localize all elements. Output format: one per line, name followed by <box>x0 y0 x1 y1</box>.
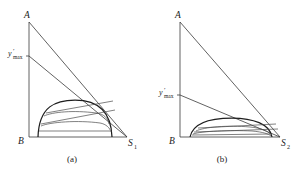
panel-a-label-right-vertex-subscript: 1 <box>134 144 137 150</box>
panel-a-line-apex-to-vertex <box>29 22 127 137</box>
panel-b-label-apex: A <box>174 10 181 20</box>
panel-a-label-right-vertex-main: S <box>128 138 133 148</box>
panel-a-label-ymax-subscript: max <box>13 54 23 60</box>
panel-b-label-ymax-var: y <box>158 88 163 97</box>
panel-b-label-ymax: y ′ max <box>158 86 174 99</box>
panel-b-label-right-vertex: S 2 <box>281 138 290 150</box>
panel-a: A B S 1 y ′ max (a) <box>7 10 137 164</box>
panel-b-line-apex-to-vertex <box>180 22 280 137</box>
figure-root: A B S 1 y ′ max (a) <box>0 0 304 171</box>
panel-b-label-right-vertex-subscript: 2 <box>287 144 290 150</box>
panel-a-label-right-vertex: S 1 <box>128 138 137 150</box>
panel-b-caption: (b) <box>217 154 228 164</box>
panel-a-caption: (a) <box>67 154 77 164</box>
panel-a-label-ymax: y ′ max <box>7 47 23 60</box>
figure-svg: A B S 1 y ′ max (a) <box>0 0 304 171</box>
panel-b-chord-3 <box>192 134 272 135</box>
panel-b: A B S 2 y ′ max (b) <box>158 10 290 164</box>
panel-b-label-origin: B <box>169 136 175 146</box>
panel-a-label-origin: B <box>18 136 24 146</box>
panel-b-label-ymax-subscript: max <box>164 93 174 99</box>
panel-a-inner-curve-2 <box>41 122 111 132</box>
panel-a-inner-curve-1 <box>44 112 109 124</box>
panel-a-label-apex: A <box>23 10 30 20</box>
panel-b-label-right-vertex-main: S <box>281 138 286 148</box>
panel-a-label-ymax-var: y <box>7 49 12 58</box>
panel-a-envelope-curve <box>38 100 112 137</box>
